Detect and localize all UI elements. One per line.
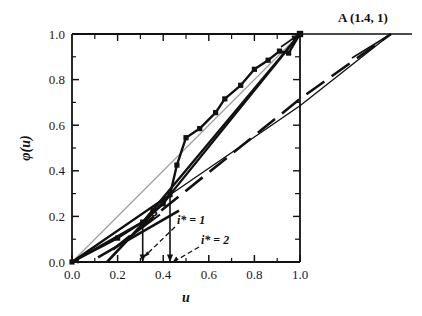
- x-tick-label: 0.6: [201, 267, 218, 282]
- x-tick-label: 0.0: [64, 267, 80, 282]
- data-point-marker: [183, 135, 188, 140]
- data-point-marker: [222, 96, 227, 101]
- data-point-marker: [286, 51, 291, 56]
- data-point-marker: [197, 126, 202, 131]
- y-tick-label: 0.4: [49, 163, 66, 178]
- x-axis-title: u: [182, 290, 190, 305]
- i-star-2-label: i* = 2: [201, 233, 229, 247]
- data-point-marker: [252, 67, 257, 72]
- y-tick-label: 0.8: [49, 72, 65, 87]
- data-point-marker: [238, 83, 243, 88]
- x-tick-label: 1.0: [292, 267, 308, 282]
- data-point-marker: [277, 49, 282, 54]
- point-a-label: A (1.4, 1): [338, 10, 388, 25]
- chart-figure: 0.0 0.2 0.4 0.6 0.8 1.0 0.0 0.2 0.4 0.6 …: [0, 0, 422, 316]
- data-point-marker: [115, 236, 120, 241]
- data-point-marker: [161, 201, 166, 206]
- i-star-1-text: i* = 1: [177, 213, 205, 227]
- y-tick-label: 0.2: [49, 209, 65, 224]
- x-tick-label: 0.4: [155, 267, 172, 282]
- y-tick-label: 0.6: [49, 118, 66, 133]
- x-tick-label: 0.8: [246, 267, 262, 282]
- y-tick-label: 1.0: [49, 27, 65, 42]
- data-point-marker: [213, 110, 218, 115]
- i-star-1-label: i* = 1: [177, 213, 205, 227]
- data-point-marker: [266, 58, 271, 63]
- y-axis-title: φ(u): [18, 135, 34, 160]
- y-tick-label: 0.0: [49, 255, 65, 270]
- i-star-2-text: i* = 2: [201, 233, 229, 247]
- point-b-label: B: [149, 204, 158, 219]
- x-tick-label: 0.2: [109, 267, 125, 282]
- data-point-marker: [174, 163, 179, 168]
- chart-svg: 0.0 0.2 0.4 0.6 0.8 1.0 0.0 0.2 0.4 0.6 …: [0, 0, 422, 316]
